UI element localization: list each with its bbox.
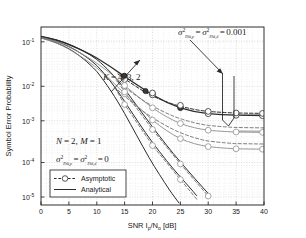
chart-legend[interactable]: Asymptotic Analytical — [50, 170, 126, 197]
y-tick-label-2: 10-3 — [22, 116, 34, 125]
y-tick-label-1: 10-2 — [22, 81, 34, 90]
x-tick-label-4: 20 — [149, 208, 157, 215]
y-tick-label-4: 10-5 — [22, 192, 34, 201]
x-tick-label-3: 15 — [121, 208, 129, 215]
x-tick-label-8: 40 — [260, 208, 268, 215]
y-axis-title: Symbol Error Probability — [4, 75, 13, 156]
x-axis-title: SNR Ip/No [dB] — [128, 221, 177, 231]
legend-label-asymptotic: Asymptotic — [81, 175, 116, 183]
symbol-error-probability-plot: 10-1 10-2 10-3 10-4 10-5 0 5 10 15 20 25… — [0, 0, 306, 238]
legend-label-analytical: Analytical — [81, 186, 111, 194]
x-tick-label-2: 10 — [93, 208, 101, 215]
x-tick-label-5: 25 — [177, 208, 185, 215]
x-tick-label-1: 5 — [67, 208, 71, 215]
y-tick-label-3: 10-4 — [22, 157, 34, 166]
y-tick-labels: 10-1 10-2 10-3 10-4 10-5 — [22, 37, 34, 201]
legend-marker-circle-icon — [62, 176, 68, 182]
x-tick-label-6: 30 — [204, 208, 212, 215]
x-tick-labels: 0 5 10 15 20 25 30 35 40 — [39, 208, 268, 215]
y-tick-label-0: 10-1 — [22, 37, 34, 46]
x-tick-label-7: 35 — [232, 208, 240, 215]
chart-figure: 10-1 10-2 10-3 10-4 10-5 0 5 10 15 20 25… — [0, 0, 306, 238]
annotation-k-values: K=4, 3, 2 — [102, 72, 141, 82]
x-tick-label-0: 0 — [39, 208, 43, 215]
